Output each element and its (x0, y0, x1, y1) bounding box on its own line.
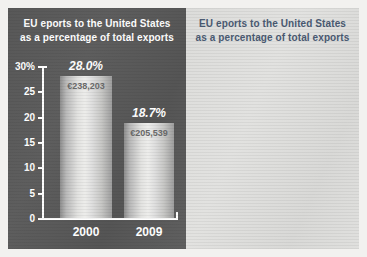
y-tick-label-10: 10 (24, 162, 35, 173)
figure-canvas: EU eports to the United States as a perc… (0, 0, 367, 257)
x-axis-right-cap-left (176, 212, 178, 218)
y-tick-label-25: 25 (24, 86, 35, 97)
y-tick-label-15: 15 (24, 137, 35, 148)
bar-2009[interactable]: 18.7% €205,539 2009 (124, 123, 174, 218)
y-tick-15 (38, 142, 43, 144)
y-tick-25 (38, 91, 43, 93)
plot-area-left: 30% 25 20 15 10 5 0 28.0% €238,203 2000 … (42, 66, 174, 218)
bar-2000[interactable]: 28.0% €238,203 2000 (60, 76, 112, 218)
chart-panel-left: EU eports to the United States as a perc… (8, 8, 186, 249)
bar-2000-value: €238,203 (60, 81, 112, 91)
y-tick-10 (38, 167, 43, 169)
bar-2000-percent: 28.0% (69, 59, 103, 73)
y-tick-0 (38, 218, 43, 220)
chart-panel-right: EU eports to the United States as a perc… (186, 8, 359, 249)
y-tick-label-30: 30% (15, 61, 35, 72)
x-axis-line-left (42, 218, 178, 220)
x-category-2009: 2009 (114, 225, 184, 239)
chart-title-right-line2: as a percentage of total exports (186, 31, 359, 45)
chart-title-right-line1: EU eports to the United States (199, 18, 346, 29)
x-category-2000: 2000 (50, 225, 122, 239)
y-tick-30 (38, 66, 43, 68)
chart-title-left-line1: EU eports to the United States (24, 18, 171, 29)
y-tick-20 (38, 117, 43, 119)
panel-right-texture (186, 8, 359, 249)
y-tick-label-5: 5 (29, 187, 35, 198)
bar-2009-value: €205,539 (124, 128, 174, 138)
chart-title-left-line2: as a percentage of total exports (8, 31, 186, 45)
chart-title-left: EU eports to the United States as a perc… (8, 17, 186, 44)
bar-2009-percent: 18.7% (132, 106, 166, 120)
chart-title-right: EU eports to the United States as a perc… (186, 17, 359, 44)
y-tick-label-0: 0 (29, 213, 35, 224)
y-tick-label-20: 20 (24, 111, 35, 122)
y-tick-5 (38, 193, 43, 195)
